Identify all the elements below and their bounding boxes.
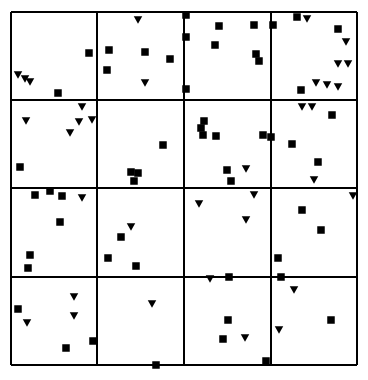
data-point-filled-square — [269, 21, 277, 29]
data-point-filled-square — [117, 233, 125, 241]
data-point-filled-square — [317, 226, 325, 234]
data-point-filled-square — [58, 192, 66, 200]
data-point-filled-square — [62, 344, 70, 352]
data-point-filled-square — [225, 273, 233, 281]
data-point-filled-square — [199, 131, 207, 139]
data-point-filled-square — [134, 169, 142, 177]
data-point-filled-square — [255, 57, 263, 65]
data-point-filled-square — [141, 48, 149, 56]
data-point-filled-square — [328, 111, 336, 119]
data-point-filled-square — [46, 187, 54, 195]
scatter-plot-canvas — [0, 0, 368, 380]
data-point-filled-square — [224, 316, 232, 324]
data-point-filled-square — [293, 13, 301, 21]
data-point-filled-square — [182, 85, 190, 93]
data-point-filled-square — [105, 46, 113, 54]
data-point-filled-square — [54, 89, 62, 97]
data-point-filled-square — [182, 11, 190, 19]
data-point-filled-square — [103, 66, 111, 74]
data-point-filled-square — [211, 41, 219, 49]
data-point-filled-square — [252, 50, 260, 58]
data-point-filled-square — [327, 316, 335, 324]
data-point-filled-square — [89, 337, 97, 345]
data-point-filled-square — [56, 218, 64, 226]
data-point-filled-square — [200, 117, 208, 125]
data-point-filled-square — [85, 49, 93, 57]
data-point-filled-square — [223, 166, 231, 174]
data-point-filled-square — [26, 251, 34, 259]
data-point-filled-square — [31, 191, 39, 199]
data-point-filled-square — [104, 254, 112, 262]
data-point-filled-square — [159, 141, 167, 149]
data-point-filled-square — [219, 335, 227, 343]
data-point-filled-square — [166, 55, 174, 63]
data-point-filled-square — [298, 206, 306, 214]
scatter-plot-figure — [0, 0, 368, 380]
data-point-filled-square — [267, 133, 275, 141]
data-point-filled-square — [16, 163, 24, 171]
data-point-filled-square — [274, 254, 282, 262]
data-point-filled-square — [250, 21, 258, 29]
data-point-filled-square — [215, 22, 223, 30]
data-point-filled-square — [152, 361, 160, 369]
data-point-filled-square — [24, 264, 32, 272]
data-point-filled-square — [14, 305, 22, 313]
data-point-filled-square — [334, 25, 342, 33]
data-point-filled-square — [288, 140, 296, 148]
data-point-filled-square — [197, 124, 205, 132]
data-point-filled-square — [297, 86, 305, 94]
data-point-filled-square — [277, 273, 285, 281]
data-point-filled-square — [132, 262, 140, 270]
data-point-filled-square — [127, 168, 135, 176]
data-point-filled-square — [314, 158, 322, 166]
data-point-filled-square — [212, 132, 220, 140]
data-point-filled-square — [130, 177, 138, 185]
data-point-filled-square — [259, 131, 267, 139]
data-point-filled-square — [262, 357, 270, 365]
data-point-filled-square — [182, 33, 190, 41]
data-point-filled-square — [227, 177, 235, 185]
